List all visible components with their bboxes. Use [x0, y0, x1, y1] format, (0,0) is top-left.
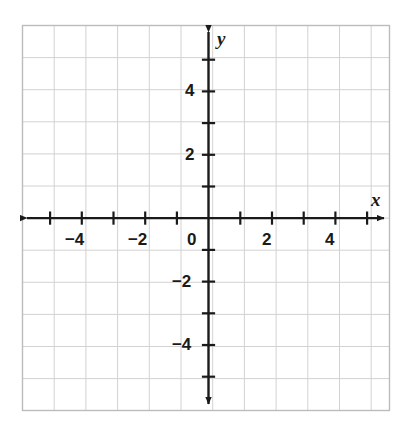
x-tick-label-4: 4 — [325, 231, 334, 248]
coordinate-plane-figure: −4 −2 0 2 4 4 2 −2 −4 x y — [0, 0, 415, 441]
x-tick-label-2: 2 — [262, 231, 271, 248]
y-tick-label-4: 4 — [185, 82, 194, 99]
y-axis-label: y — [217, 29, 225, 48]
x-tick-label-neg4: −4 — [65, 231, 84, 248]
y-tick-label-neg2: −2 — [172, 273, 191, 290]
x-tick-label-neg2: −2 — [128, 231, 147, 248]
y-tick-label-2: 2 — [185, 146, 194, 163]
coordinate-grid-svg — [0, 0, 415, 441]
y-tick-label-neg4: −4 — [172, 336, 191, 353]
x-tick-label-zero: 0 — [187, 231, 196, 248]
x-axis-label: x — [371, 190, 381, 209]
